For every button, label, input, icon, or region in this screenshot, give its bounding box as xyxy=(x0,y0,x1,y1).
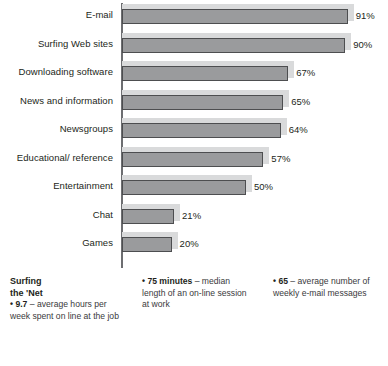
bar-chart: E-mail91%Surfing Web sites90%Downloading… xyxy=(0,0,388,272)
bar xyxy=(122,66,288,81)
footnotes-panel: Surfing the 'Net • 9.7 – average hours p… xyxy=(0,276,388,366)
bar-category-label: E-mail xyxy=(0,9,113,20)
bar-row: Newsgroups64% xyxy=(0,116,388,143)
footnotes-heading-line2: the 'Net xyxy=(10,288,43,298)
footnote-lead-value: 75 minutes xyxy=(147,276,192,286)
bar-row: Chat21% xyxy=(0,202,388,229)
bar-row: Educational/ reference57% xyxy=(0,145,388,172)
bar-category-label: Educational/ reference xyxy=(0,152,113,163)
bar-category-label: Downloading software xyxy=(0,66,113,77)
bullet-icon: • xyxy=(273,276,276,286)
bar-category-label: Chat xyxy=(0,209,113,220)
bar xyxy=(122,180,246,195)
footnote-lead-value: 65 xyxy=(278,276,288,286)
bullet-icon: • xyxy=(142,276,145,286)
footnote-text: – average number of weekly e-mail messag… xyxy=(273,276,370,298)
bar-category-label: Newsgroups xyxy=(0,123,113,134)
bar xyxy=(122,123,281,138)
footnote-item: • 75 minutes – median length of an on-li… xyxy=(142,276,254,311)
footnote-column-3: • 65 – average number of weekly e-mail m… xyxy=(273,276,383,299)
bar-row: News and information65% xyxy=(0,88,388,115)
bar xyxy=(122,152,263,167)
footnote-text: – average hours per week spent on line a… xyxy=(10,299,119,321)
footnotes-heading-line1: Surfing xyxy=(10,276,42,286)
bar-row: Entertainment50% xyxy=(0,173,388,200)
bar-category-label: Surfing Web sites xyxy=(0,38,113,49)
footnote-item: • 9.7 – average hours per week spent on … xyxy=(10,299,122,322)
bar-value-label: 57% xyxy=(271,153,290,164)
footnote-column-2: • 75 minutes – median length of an on-li… xyxy=(142,276,254,311)
bar-value-label: 65% xyxy=(291,96,310,107)
bar xyxy=(122,237,172,252)
bar-value-label: 21% xyxy=(182,210,201,221)
bar xyxy=(122,9,348,24)
bar-value-label: 64% xyxy=(289,124,308,135)
footnote-column-1: Surfing the 'Net • 9.7 – average hours p… xyxy=(10,276,122,322)
bar-value-label: 91% xyxy=(356,10,375,21)
bar-row: Surfing Web sites90% xyxy=(0,31,388,58)
bar-row: Downloading software67% xyxy=(0,59,388,86)
bar xyxy=(122,95,283,110)
bullet-icon: • xyxy=(10,299,13,309)
bar-category-label: Games xyxy=(0,237,113,248)
footnote-item: • 65 – average number of weekly e-mail m… xyxy=(273,276,383,299)
footnotes-heading: Surfing the 'Net xyxy=(10,276,122,299)
footnote-lead-value: 9.7 xyxy=(15,299,27,309)
bar-row: Games20% xyxy=(0,230,388,257)
bar-row: E-mail91% xyxy=(0,2,388,29)
bar-value-label: 67% xyxy=(296,67,315,78)
bar-value-label: 50% xyxy=(254,181,273,192)
chart-figure: E-mail91%Surfing Web sites90%Downloading… xyxy=(0,0,388,366)
bar-category-label: News and information xyxy=(0,95,113,106)
bar xyxy=(122,209,174,224)
bar-value-label: 90% xyxy=(353,39,372,50)
bar xyxy=(122,38,345,53)
bar-category-label: Entertainment xyxy=(0,180,113,191)
bar-value-label: 20% xyxy=(180,238,199,249)
